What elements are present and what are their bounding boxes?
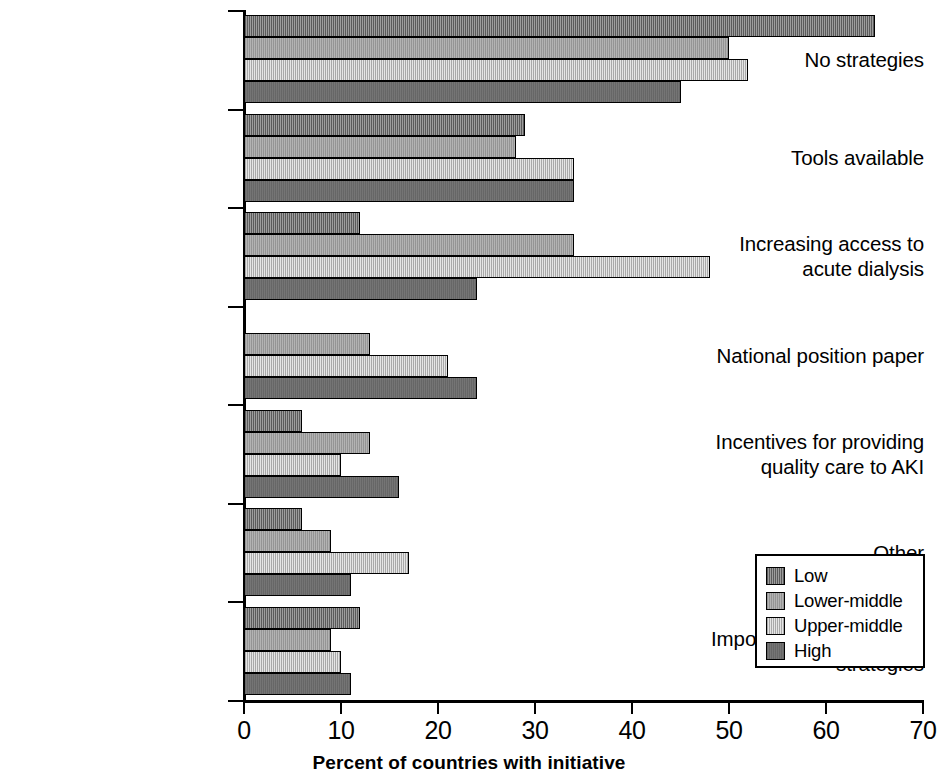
category-label: National position paper <box>706 343 938 368</box>
y-axis-tick <box>228 109 244 111</box>
bar-row <box>0 311 679 333</box>
bar-low <box>244 114 525 136</box>
x-axis-tick-label: 70 <box>893 716 938 744</box>
bar-low <box>244 508 302 530</box>
legend-label: Low <box>794 566 827 586</box>
bar-row <box>0 81 679 103</box>
bar-low <box>244 212 360 234</box>
x-axis-tick <box>922 703 924 714</box>
y-axis-tick <box>228 207 244 209</box>
bar-row <box>0 454 679 476</box>
bar-row <box>0 136 679 158</box>
bar-row <box>0 114 679 136</box>
category-label: Increasing access toacute dialysis <box>706 231 938 281</box>
bar-row <box>0 673 679 695</box>
x-axis-tick <box>728 703 730 714</box>
bar-lower-middle <box>244 37 729 59</box>
bar-high <box>244 81 681 103</box>
bar-row <box>0 15 679 37</box>
bar-row <box>0 278 679 300</box>
bar-row <box>0 651 679 673</box>
x-axis-tick <box>825 703 827 714</box>
legend-label: Lower-middle <box>794 591 903 611</box>
bar-lower-middle <box>244 136 516 158</box>
x-axis-tick <box>534 703 536 714</box>
bar-lower-middle <box>244 234 574 256</box>
bar-group <box>0 311 679 399</box>
x-axis-tick <box>340 703 342 714</box>
legend-item[interactable]: Low <box>766 563 923 588</box>
legend-item[interactable]: Lower-middle <box>766 588 923 613</box>
x-axis-line <box>243 700 924 703</box>
bar-group <box>0 508 679 596</box>
bar-row <box>0 410 679 432</box>
bar-row <box>0 574 679 596</box>
x-axis-tick-label: 10 <box>311 716 371 744</box>
bar-upper-middle <box>244 355 448 377</box>
bar-high <box>244 278 477 300</box>
legend-swatch-icon <box>766 592 785 610</box>
bar-row <box>0 158 679 180</box>
bar-row <box>0 432 679 454</box>
bar-high <box>244 377 477 399</box>
x-axis-tick-label: 20 <box>408 716 468 744</box>
legend-item[interactable]: High <box>766 638 923 663</box>
bar-upper-middle <box>244 256 710 278</box>
legend-item[interactable]: Upper-middle <box>766 613 923 638</box>
bar-upper-middle <box>244 158 574 180</box>
bar-group <box>0 607 679 695</box>
category-label: Incentives for providingquality care to … <box>706 429 938 479</box>
bar-row <box>0 256 679 278</box>
bar-group <box>0 410 679 498</box>
bar-row <box>0 607 679 629</box>
bar-upper-middle <box>244 454 341 476</box>
bar-high <box>244 574 351 596</box>
legend-swatch-icon <box>766 617 785 635</box>
bar-row <box>0 508 679 530</box>
x-axis-tick-label: 40 <box>602 716 662 744</box>
bar-group <box>0 114 679 202</box>
bar-high <box>244 180 574 202</box>
bar-lower-middle <box>244 432 370 454</box>
legend-swatch-icon <box>766 642 785 660</box>
bar-lower-middle <box>244 530 331 552</box>
legend-label: High <box>794 641 831 661</box>
bar-lower-middle <box>244 629 331 651</box>
bar-row <box>0 355 679 377</box>
bar-row <box>0 212 679 234</box>
bar-row <box>0 530 679 552</box>
legend-swatch-icon <box>766 567 785 585</box>
y-axis-tick <box>228 503 244 505</box>
bar-row <box>0 37 679 59</box>
bar-row <box>0 377 679 399</box>
y-axis-tick <box>228 700 244 702</box>
legend: LowLower-middleUpper-middleHigh <box>755 554 925 668</box>
bar-row <box>0 180 679 202</box>
bar-row <box>0 234 679 256</box>
category-label: Tools available <box>706 145 938 170</box>
bar-row <box>0 476 679 498</box>
x-axis-title: Percent of countries with initiative <box>0 752 938 774</box>
bar-group <box>0 15 679 103</box>
x-axis-tick <box>437 703 439 714</box>
bar-upper-middle <box>244 552 409 574</box>
x-axis-tick <box>631 703 633 714</box>
bar-row <box>0 59 679 81</box>
x-axis-tick-label: 60 <box>796 716 856 744</box>
bar-row <box>0 333 679 355</box>
bar-low <box>244 607 360 629</box>
bar-group <box>0 212 679 300</box>
bar-row <box>0 629 679 651</box>
y-axis-tick <box>228 306 244 308</box>
x-axis-tick-label: 30 <box>505 716 565 744</box>
bar-low <box>244 15 875 37</box>
bar-upper-middle <box>244 651 341 673</box>
bar-low <box>244 410 302 432</box>
y-axis-tick <box>228 10 244 12</box>
bar-high <box>244 673 351 695</box>
y-axis-tick <box>228 404 244 406</box>
y-axis-tick <box>228 601 244 603</box>
x-axis-tick-label: 50 <box>699 716 759 744</box>
x-axis-tick-label: 0 <box>214 716 274 744</box>
bar-high <box>244 476 399 498</box>
